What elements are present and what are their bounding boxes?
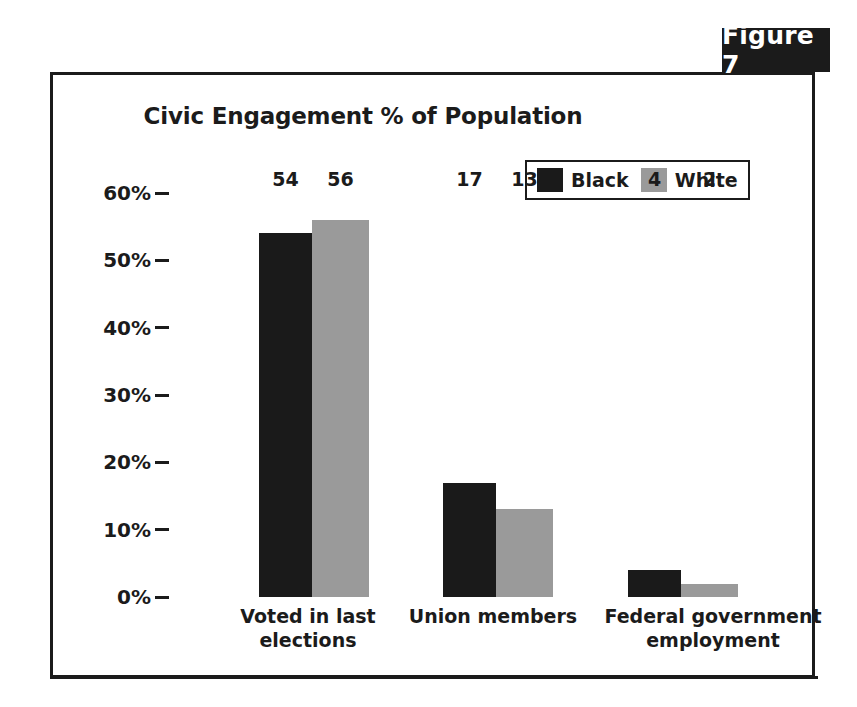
bar [681,584,738,597]
bar-group: 1713 [443,193,553,597]
y-axis-tick-dash [155,259,169,262]
figure-number-badge: Figure 7 [722,28,830,72]
x-axis-category-label: Voted in lastelections [208,605,408,653]
y-axis-tick-dash [155,528,169,531]
chart-title: Civic Engagement % of Population [53,103,673,129]
y-axis-tick-dash [155,394,169,397]
x-axis-category-label: Federal governmentemployment [598,605,828,653]
y-axis-tick: 40% [103,316,143,340]
y-axis-tick: 60% [103,181,143,205]
y-axis-tick-label: 0% [117,585,151,609]
y-axis-tick: 50% [103,248,143,272]
bar-group: 42 [628,193,738,597]
y-axis-tick-dash [155,461,169,464]
x-axis-category-label-line: Union members [393,605,593,629]
bottom-rule [50,676,818,679]
bar [259,233,312,597]
bar-column: 54 [259,193,312,597]
x-axis-category-label-line: Voted in last [208,605,408,629]
y-axis-tick-dash [155,192,169,195]
y-axis-tick-dash [155,596,169,599]
bar-group: 5456 [259,193,369,597]
bar-value-label: 17 [443,168,496,190]
bar-value-label: 54 [259,168,312,190]
bar-column: 2 [681,193,738,597]
legend-label-black: Black [571,169,629,191]
y-axis-tick-label: 60% [103,181,151,205]
x-axis-category-label-line: Federal government [598,605,828,629]
chart-frame: Civic Engagement % of Population Black W… [50,72,815,678]
y-axis-tick-label: 50% [103,248,151,272]
figure-page: Figure 7 Civic Engagement % of Populatio… [0,0,857,707]
y-axis-tick-dash [155,326,169,329]
x-axis-category-label-line: elections [208,629,408,653]
y-axis-tick-label: 20% [103,450,151,474]
bar [496,509,553,597]
y-axis-tick: 30% [103,383,143,407]
y-axis-tick-label: 10% [103,518,151,542]
x-axis-category-label: Union members [393,605,593,629]
y-axis-tick-label: 30% [103,383,151,407]
bar-value-label: 56 [312,168,369,190]
bar-value-label: 2 [681,168,738,190]
bar-column: 13 [496,193,553,597]
y-axis-tick: 0% [117,585,143,609]
bar [628,570,681,597]
x-axis-category-label-line: employment [598,629,828,653]
bar-column: 4 [628,193,681,597]
bar-value-label: 4 [628,168,681,190]
bar [443,483,496,597]
bar-column: 17 [443,193,496,597]
bar-value-label: 13 [496,168,553,190]
bar [312,220,369,597]
plot-area: 60%50%40%30%20%10%0%5456Voted in lastele… [143,193,788,597]
y-axis-tick: 10% [103,518,143,542]
y-axis-tick: 20% [103,450,143,474]
y-axis-tick-label: 40% [103,316,151,340]
bar-column: 56 [312,193,369,597]
